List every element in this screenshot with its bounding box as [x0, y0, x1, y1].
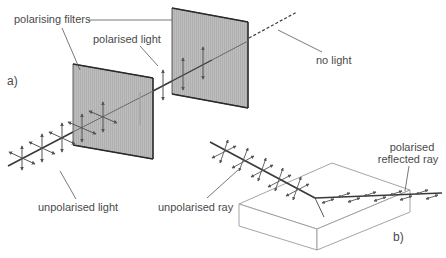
- polarising-filters-label: polarising filters: [14, 13, 90, 25]
- no-light-ray: [249, 12, 297, 38]
- unpolarised-light-label: unpolarised light: [38, 201, 118, 213]
- polarised-light-label: polarised light: [93, 33, 161, 45]
- part-b-label: b): [393, 231, 404, 243]
- polarisation-diagram: polarising filters polarised light no li…: [0, 0, 446, 258]
- reflected-ray-label-line2: reflected ray: [370, 153, 446, 165]
- reflecting-block: [239, 163, 410, 250]
- unpolarised-ray-label: unpolarised ray: [158, 201, 233, 213]
- part-a-label: a): [7, 75, 18, 87]
- unpolarised-ray-b: [210, 142, 315, 198]
- no-light-label: no light: [316, 54, 351, 66]
- reflected-ray-label-line1: polarised: [377, 141, 446, 153]
- unpolarised-ray-a: [8, 132, 73, 166]
